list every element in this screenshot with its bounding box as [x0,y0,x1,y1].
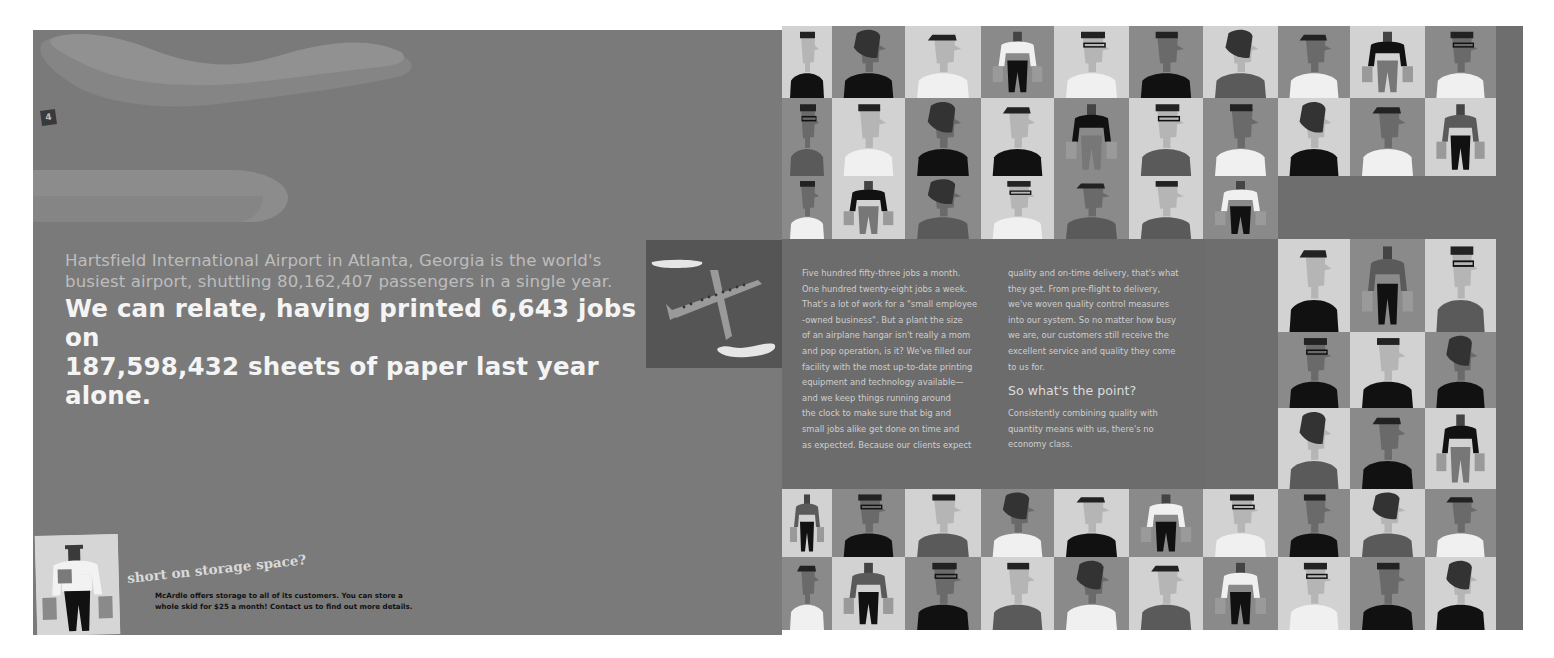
body-line: facility with the most up-to-date printi… [802,362,972,372]
portrait-tile [1278,557,1350,630]
portrait-tile [832,26,905,98]
left-page: 4 Hartsfield International Airport in At… [33,30,782,635]
page-number: 4 [40,109,57,126]
portrait-tile [1425,408,1496,489]
point-body: Consistently combining quality with quan… [1008,406,1200,453]
portrait-tile [1278,26,1350,98]
portrait-tile [981,557,1054,630]
portrait-tile [1129,557,1203,630]
portrait-tile [905,557,981,630]
body-line: excellent service and quality they come [1008,346,1175,356]
headline-main-line-1: We can relate, having printed 6,643 jobs… [65,294,675,352]
body-line: of an airplane hangar isn't really a mom [802,330,970,340]
body-line: economy class. [1008,439,1073,449]
body-line: small jobs alike get done on time and [802,424,959,434]
body-line: That's a lot of work for a "small employ… [802,299,977,309]
portrait-tile [1425,489,1496,557]
storage-callout-title: short on storage space? [126,551,307,586]
portrait-tile [1203,176,1278,239]
body-line: -owned business". But a plant the size [802,315,963,325]
portrait-tile [1425,98,1496,176]
storage-callout-body: McArdle offers storage to all of its cus… [155,590,475,612]
portrait-tile [981,489,1054,557]
body-line: as expected. Because our clients expect [802,440,971,450]
body-line: One hundred twenty-eight jobs a week. [802,284,967,294]
portrait-tile [905,26,981,98]
portrait-tile [1425,26,1496,98]
body-column-1: Five hundred fifty-three jobs a month. O… [802,266,994,453]
cloud-icon [33,30,413,112]
portrait-tile [1203,26,1278,98]
body-line: into our system. So no matter how busy [1008,315,1176,325]
portrait-tile [1203,557,1278,630]
body-column-2: quality and on-time delivery, that's wha… [1008,266,1200,375]
body-line: quantity means with us, there's no [1008,424,1154,434]
portrait-tile [1278,332,1350,408]
storage-illustration [35,534,121,635]
portrait-tile [1278,239,1350,332]
portrait-tile [1129,489,1203,557]
cloud-icon [33,170,288,222]
portrait-tile [1054,26,1129,98]
portrait-tile [782,176,832,239]
portrait-tile [1278,408,1350,489]
portrait-tile [832,176,905,239]
right-page: Five hundred fifty-three jobs a month. O… [782,26,1523,630]
body-line: we've woven quality control measures [1008,299,1169,309]
portrait-tile [1203,98,1278,176]
portrait-tile [1425,239,1496,332]
storage-callout-line-2: whole skid for $25 a month! Contact us t… [155,602,412,611]
body-line: the clock to make sure that big and [802,408,951,418]
body-line: quality and on-time delivery, that's wha… [1008,268,1179,278]
portrait-tile [1129,26,1203,98]
airplane-icon [646,240,782,368]
portrait-tile [981,26,1054,98]
body-line: Five hundred fifty-three jobs a month. [802,268,960,278]
portrait-tile [1350,98,1425,176]
portrait-tile [1350,489,1425,557]
portrait-tile [1350,408,1425,489]
text-panel: Five hundred fifty-three jobs a month. O… [782,239,1205,489]
portrait-tile [1350,332,1425,408]
body-line: they get. From pre-flight to delivery, [1008,284,1160,294]
portrait-tile [981,176,1054,239]
porter-with-bags-icon [35,534,121,635]
portrait-tile [832,557,905,630]
body-line: we are, our customers still receive the [1008,330,1169,340]
portrait-tile [832,489,905,557]
point-heading: So what's the point? [1008,383,1136,398]
portrait-tile [1054,557,1129,630]
portrait-tile [1054,489,1129,557]
portrait-tile [1129,176,1203,239]
portrait-tile [905,98,981,176]
portrait-tile [1278,98,1350,176]
portrait-tile [782,26,832,98]
portrait-tile [782,557,832,630]
portrait-tile [1350,557,1425,630]
body-line: to us for. [1008,362,1045,372]
body-line: and pop operation, is it? We've filled o… [802,346,971,356]
airplane-illustration [646,240,782,368]
portrait-tile [1054,98,1129,176]
portrait-tile [1425,557,1496,630]
portrait-tile [905,489,981,557]
portrait-tile [782,98,832,176]
portrait-tile [1129,98,1203,176]
portrait-tile [1054,176,1129,239]
headline-main-line-2: 187,598,432 sheets of paper last year al… [65,352,675,410]
headline-subtitle-line-1: Hartsfield International Airport in Atla… [65,250,675,271]
portrait-tile [905,176,981,239]
portrait-tile [1425,332,1496,408]
portrait-tile [981,98,1054,176]
portrait-tile [1350,26,1425,98]
portrait-tile [1203,489,1278,557]
portrait-tile [1278,489,1350,557]
body-line: equipment and technology available— [802,377,964,387]
portrait-tile [832,98,905,176]
body-line: and we keep things running around [802,393,951,403]
portrait-tile [1350,239,1425,332]
portrait-tile [782,489,832,557]
headline-subtitle-line-2: busiest airport, shuttling 80,162,407 pa… [65,271,675,292]
storage-callout-line-1: McArdle offers storage to all of its cus… [155,591,403,600]
body-line: Consistently combining quality with [1008,408,1158,418]
